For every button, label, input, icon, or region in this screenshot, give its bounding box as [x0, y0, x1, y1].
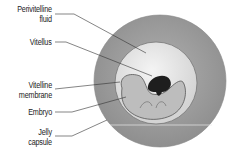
label-vitellus: Vitellus: [30, 37, 52, 47]
label-embryo: Embryo: [28, 107, 52, 117]
label-vitelline-membrane: Vitelline membrane: [19, 80, 52, 100]
label-jelly-capsule: Jelly capsule: [28, 127, 52, 147]
label-line: Vitelline: [19, 80, 52, 90]
label-line: Jelly: [28, 127, 52, 137]
label-perivitelline-fluid: Perivitelline fluid: [17, 4, 52, 24]
label-line: membrane: [19, 90, 52, 100]
label-line: Vitellus: [30, 37, 52, 47]
label-line: capsule: [28, 137, 52, 147]
label-line: fluid: [17, 14, 52, 24]
label-line: Perivitelline: [17, 4, 52, 14]
label-line: Embryo: [28, 107, 52, 117]
